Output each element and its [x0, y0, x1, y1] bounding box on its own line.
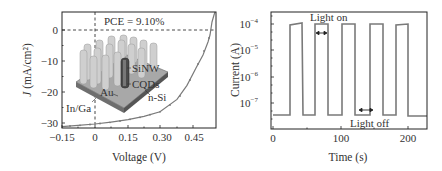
- jv-chart: SiNW CQDs Au n-Si In/Ga PCE = 9.10%: [21, 12, 216, 164]
- label-au: Au: [100, 86, 114, 98]
- switching-chart: Light on Light off 0 100 200: [229, 11, 427, 164]
- jv-xtick-label: 0.15: [118, 131, 138, 143]
- jv-xtick-label: 0.30: [152, 131, 172, 143]
- jv-y-axis-label: J (mA/cm²): [21, 43, 34, 97]
- label-nsi: n-Si: [148, 91, 166, 103]
- switching-y-axis-label: Current (A): [229, 43, 242, 97]
- switching-ytick-label: 10−7: [240, 96, 259, 109]
- switching-x-axis-label: Time (s): [329, 151, 368, 164]
- jv-ytick-label: −20: [41, 86, 59, 98]
- jv-xtick-label: −0.15: [49, 131, 75, 143]
- label-inga: In/Ga: [66, 102, 91, 114]
- current-trace: [273, 23, 427, 116]
- switching-xtick-label: 0: [270, 132, 276, 144]
- label-sinw: SiNW: [132, 62, 160, 74]
- coated-nanowire-highlight: [123, 60, 126, 86]
- light-on-label: Light on: [310, 11, 348, 23]
- light-off-label: Light off: [350, 117, 390, 129]
- jv-ytick-label: −30: [41, 117, 59, 129]
- switching-xtick-label: 100: [333, 132, 350, 144]
- jv-y-axis-unit: (mA/cm²): [21, 43, 34, 92]
- jv-x-axis-label: Voltage (V): [112, 151, 166, 164]
- switching-ytick-label: 10−6: [240, 70, 259, 83]
- light-on-duration-arrow: [316, 31, 327, 34]
- pce-label: PCE = 9.10%: [104, 15, 164, 27]
- jv-ytick-label: 0: [53, 24, 59, 36]
- switching-xtick-label: 200: [400, 132, 417, 144]
- light-off-duration-arrow: [359, 108, 373, 111]
- jv-xtick-label: 0.45: [184, 131, 204, 143]
- jv-ytick-label: −10: [41, 55, 59, 67]
- jv-xtick-label: 0: [92, 131, 98, 143]
- switching-plot-frame: [271, 12, 427, 129]
- label-cqds: CQDs: [132, 78, 160, 90]
- figure: SiNW CQDs Au n-Si In/Ga PCE = 9.10%: [0, 0, 442, 171]
- switching-ytick-label: 10−4: [240, 17, 259, 30]
- switching-ytick-label: 10−5: [240, 43, 259, 56]
